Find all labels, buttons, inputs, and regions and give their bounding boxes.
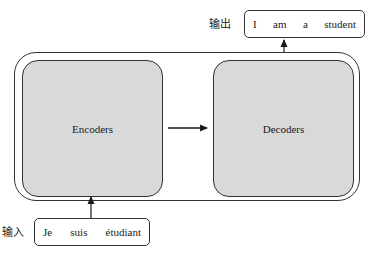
output-token: a [303, 18, 308, 30]
input-token: Je [43, 226, 52, 238]
input-label: 输入 [2, 223, 24, 239]
input-sequence-box: Je suis étudiant [34, 218, 150, 246]
input-token: suis [70, 226, 87, 238]
output-token: I [253, 18, 257, 30]
output-token: am [273, 18, 286, 30]
output-sequence-box: I am a student [244, 10, 365, 38]
output-label: 输出 [209, 15, 231, 31]
output-token: student [324, 18, 356, 30]
input-token: étudiant [106, 226, 141, 238]
